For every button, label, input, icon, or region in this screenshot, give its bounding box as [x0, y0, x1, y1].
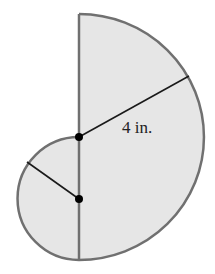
small-center-dot: [75, 195, 83, 203]
large-center-dot: [75, 133, 83, 141]
radius-label: 4 in.: [122, 118, 152, 137]
composite-shape-diagram: 4 in.: [0, 0, 215, 274]
shape-fill: [18, 14, 204, 260]
